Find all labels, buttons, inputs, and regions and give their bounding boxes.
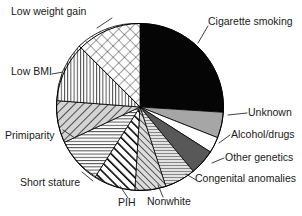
- pie-label-cigarette-smoking: Cigarette smoking: [208, 16, 293, 27]
- pie-label-unknown: Unknown: [248, 107, 292, 118]
- leader-cigarette-smoking: [198, 26, 208, 43]
- pie-label-low-bmi: Low BMI: [11, 66, 52, 77]
- leader-alcohol-drugs: [219, 135, 230, 143]
- pie-slice-cigarette-smoking[interactable]: [140, 24, 223, 113]
- pie-label-short-stature: Short stature: [20, 177, 80, 188]
- pie-slices: [56, 23, 223, 190]
- pie-chart: Low weight gain Cigarette smoking Low BM…: [0, 0, 302, 216]
- leader-unknown: [228, 113, 247, 115]
- pie-label-pih: PIH: [118, 197, 136, 208]
- leader-other-genetics: [212, 158, 224, 163]
- pie-label-alcohol-drugs: Alcohol/drugs: [231, 129, 295, 140]
- pie-label-low-weight-gain: Low weight gain: [11, 6, 86, 17]
- pie-label-nonwhite: Nonwhite: [147, 196, 191, 207]
- pie-label-other-genetics: Other genetics: [225, 152, 293, 163]
- pie-label-congenital-anomalies: Congenital anomalies: [195, 173, 296, 184]
- leader-low-weight-gain: [97, 18, 112, 28]
- pie-label-primiparity: Primiparity: [5, 130, 55, 141]
